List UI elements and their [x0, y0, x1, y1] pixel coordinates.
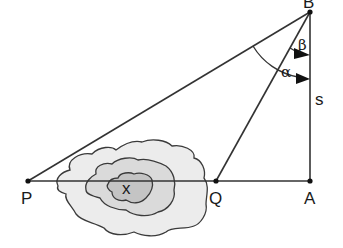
- label-Q: Q: [209, 189, 222, 208]
- label-beta: β: [298, 36, 307, 54]
- diagram-canvas: B A Q P s x α β: [0, 0, 343, 248]
- arc-alpha: [253, 46, 298, 77]
- point-P: [25, 178, 30, 183]
- point-A: [307, 178, 312, 183]
- label-A: A: [304, 189, 316, 208]
- point-Q: [213, 178, 218, 183]
- label-x: x: [122, 179, 131, 198]
- angle-arcs: [253, 46, 298, 77]
- arrowhead-alpha-icon: [296, 73, 310, 84]
- label-B: B: [303, 0, 314, 12]
- line-BQ: [216, 12, 310, 181]
- contour-region: [57, 140, 207, 236]
- label-P: P: [21, 189, 32, 208]
- label-s: s: [315, 90, 324, 109]
- label-alpha: α: [281, 63, 291, 81]
